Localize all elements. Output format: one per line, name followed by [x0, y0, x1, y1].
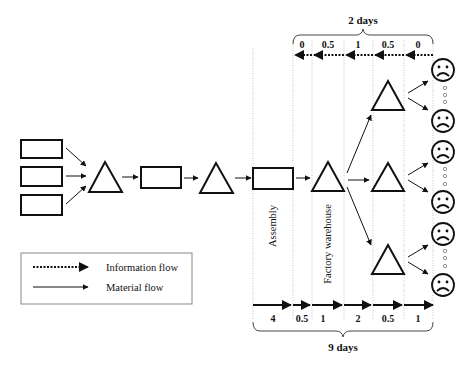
top-span-label: 2 days [348, 14, 378, 26]
bottom-span-label: 9 days [328, 341, 358, 353]
top-brace [293, 29, 433, 44]
svg-text:1: 1 [321, 313, 326, 324]
supplier-flow-arrows [66, 148, 86, 204]
svg-text:0: 0 [300, 39, 305, 50]
distribution-triangle-mid [372, 163, 404, 191]
supplier-box-2 [21, 167, 62, 186]
ellipsis-dots [443, 86, 446, 267]
svg-text:2: 2 [356, 313, 361, 324]
distribution-triangle-top [372, 81, 404, 110]
assembly-box [253, 168, 293, 189]
supply-chain-diagram: 2 days 0 0.5 1 0.5 0 [0, 0, 474, 368]
svg-text:0.5: 0.5 [382, 313, 395, 324]
sad-face-icon [432, 274, 454, 296]
sad-face-icon [432, 223, 454, 245]
legend-information-flow-label: Information flow [106, 262, 178, 273]
sad-face-icon [432, 59, 454, 81]
svg-text:1: 1 [416, 313, 421, 324]
stage-dividers [253, 40, 433, 320]
legend-material-flow-label: Material flow [106, 282, 164, 293]
assembly-label: Assembly [267, 204, 278, 247]
supplier-box-1 [21, 140, 62, 158]
distribution-triangle-bottom [372, 245, 404, 274]
sad-face-icon [432, 191, 454, 213]
bottom-brace [253, 322, 433, 337]
legend: Information flow Material flow [21, 253, 192, 304]
process-box-1 [141, 167, 181, 188]
svg-text:4: 4 [271, 313, 276, 324]
inventory-triangle-1 [89, 162, 122, 192]
svg-text:0.5: 0.5 [322, 39, 335, 50]
factory-warehouse-triangle [312, 162, 344, 191]
supplier-boxes [21, 140, 62, 215]
inventory-triangle-2 [200, 163, 233, 193]
svg-text:0.5: 0.5 [296, 313, 309, 324]
sad-face-icon [432, 110, 454, 132]
supplier-box-3 [21, 195, 62, 215]
factory-warehouse-label: Factory warehouse [322, 204, 333, 284]
svg-text:0.5: 0.5 [382, 39, 395, 50]
sad-face-icon [432, 141, 454, 163]
svg-text:0: 0 [416, 39, 421, 50]
svg-text:1: 1 [356, 39, 361, 50]
info-flow-labels: 0 0.5 1 0.5 0 [300, 39, 421, 50]
